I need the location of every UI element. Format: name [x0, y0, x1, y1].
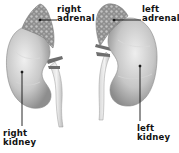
left-ureter [99, 52, 110, 120]
left-kidney-label: left kidney [137, 124, 170, 142]
label-line: adrenal [142, 14, 179, 23]
right-adrenal-label: right adrenal [57, 5, 95, 23]
right-ureter [50, 62, 63, 127]
label-line: kidney [137, 133, 170, 142]
label-line: kidney [3, 138, 36, 147]
left-kidney [108, 18, 157, 106]
right-kidney-group [6, 4, 63, 127]
right-kidney-label: right kidney [3, 129, 36, 147]
right-kidney [6, 27, 51, 108]
left-adrenal-label: left adrenal [142, 5, 179, 23]
label-line: adrenal [57, 14, 95, 23]
